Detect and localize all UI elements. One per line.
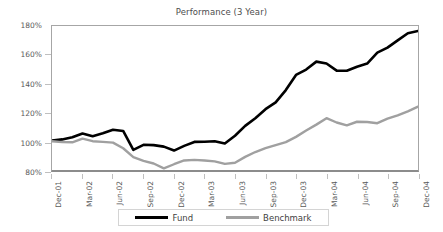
x-tick-label: Dec-03 xyxy=(299,181,308,208)
plot-area xyxy=(51,25,419,172)
x-tick-mark xyxy=(204,174,205,179)
y-tick-mark xyxy=(45,172,51,173)
x-tick-mark xyxy=(174,174,175,179)
legend-item-benchmark: Benchmark xyxy=(226,213,311,223)
chart-legend: Fund Benchmark xyxy=(118,209,329,226)
fund-line-swatch-icon xyxy=(135,216,168,219)
y-tick-label: 120% xyxy=(21,109,42,118)
x-tick-mark xyxy=(296,174,297,179)
x-tick-mark xyxy=(51,174,52,179)
x-tick-label: Mar-02 xyxy=(85,181,94,207)
performance-chart: Performance (3 Year) 180%160%140%120%100… xyxy=(0,0,443,232)
x-tick-mark xyxy=(419,174,420,179)
x-tick-mark xyxy=(143,174,144,179)
x-tick-label: Jun-04 xyxy=(361,181,370,205)
x-tick-mark xyxy=(235,174,236,179)
series-lines xyxy=(52,26,418,170)
x-tick-mark xyxy=(388,174,389,179)
y-tick-label: 100% xyxy=(21,138,42,147)
legend-label-benchmark: Benchmark xyxy=(263,213,311,223)
x-tick-label: Sep-04 xyxy=(391,181,400,207)
x-axis: Dec-01Mar-02Jun-02Sep-02Dec-02Mar-03Jun-… xyxy=(0,174,443,208)
x-tick-mark xyxy=(327,174,328,179)
legend-label-fund: Fund xyxy=(172,213,193,223)
legend-item-fund: Fund xyxy=(135,213,193,223)
x-tick-label: Dec-01 xyxy=(54,181,63,208)
x-tick-label: Jun-03 xyxy=(238,181,247,205)
x-tick-mark xyxy=(82,174,83,179)
x-tick-label: Dec-02 xyxy=(177,181,186,208)
benchmark-line-swatch-icon xyxy=(226,216,259,219)
x-tick-label: Dec-04 xyxy=(422,181,431,208)
x-tick-label: Mar-03 xyxy=(207,181,216,207)
x-tick-label: Sep-02 xyxy=(146,181,155,207)
x-tick-label: Jun-02 xyxy=(115,181,124,205)
series-line-benchmark xyxy=(52,107,418,169)
series-line-fund xyxy=(52,31,418,151)
chart-title: Performance (3 Year) xyxy=(0,7,443,17)
x-tick-mark xyxy=(266,174,267,179)
y-tick-label: 140% xyxy=(21,79,42,88)
x-tick-mark xyxy=(112,174,113,179)
x-tick-mark xyxy=(358,174,359,179)
y-tick-label: 180% xyxy=(21,21,42,30)
x-tick-label: Mar-04 xyxy=(330,181,339,207)
y-tick-label: 160% xyxy=(21,50,42,59)
x-tick-label: Sep-03 xyxy=(269,181,278,207)
